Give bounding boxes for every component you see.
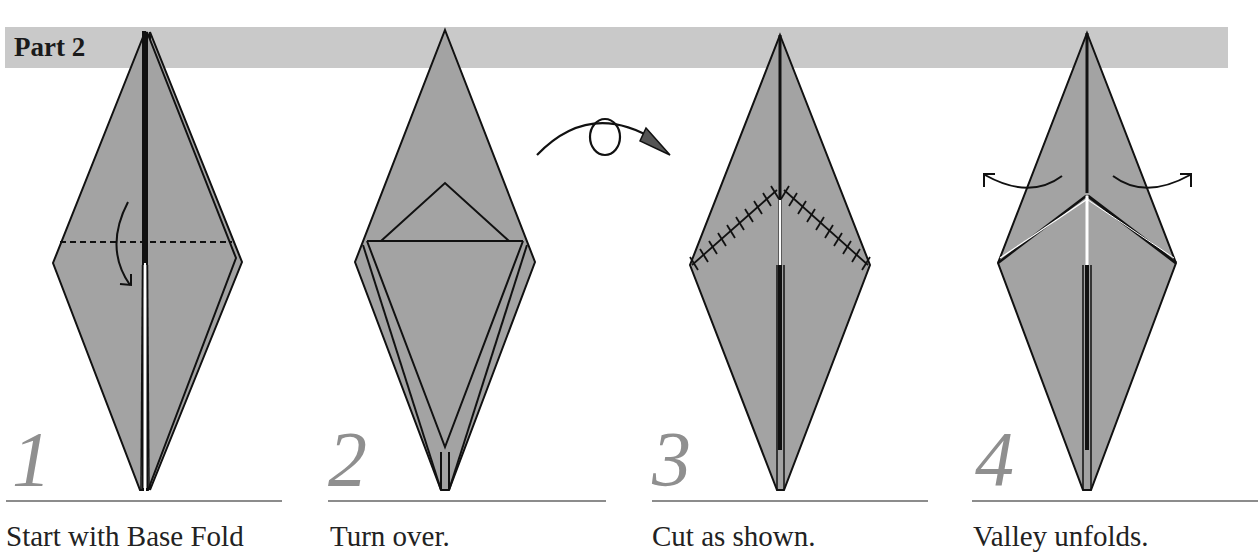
origami-diagrams: [0, 0, 1260, 560]
step-2-caption: Turn over.: [330, 518, 450, 554]
turn-over-arrow-icon: [537, 119, 670, 155]
step-1-caption: Start with Base Fold: [6, 518, 244, 554]
step-number-3: 3: [652, 420, 691, 498]
left-half-shape: [53, 32, 145, 490]
kite-shape: [355, 30, 535, 490]
step-3-caption: Cut as shown.: [652, 518, 816, 554]
step-3-diagram: [690, 35, 870, 490]
step-4-diagram: [984, 33, 1191, 490]
step-number-1: 1: [12, 420, 51, 498]
step-number-4: 4: [975, 420, 1014, 498]
step-4-caption: Valley unfolds.: [973, 518, 1149, 554]
step-1-divider: [6, 500, 282, 502]
step-4-divider: [972, 500, 1258, 502]
step-3-divider: [652, 500, 928, 502]
step-1-diagram: [53, 32, 242, 490]
step-2-divider: [328, 500, 606, 502]
step-2-diagram: [355, 30, 670, 490]
right-half-shape: [147, 32, 236, 490]
step-number-2: 2: [328, 420, 367, 498]
